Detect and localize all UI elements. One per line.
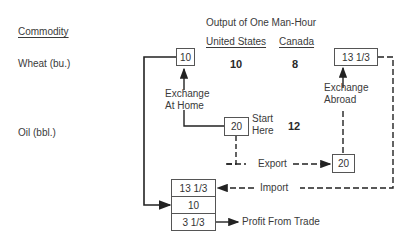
exchange-home-line [184,110,224,126]
canada-oil-value: 12 [288,120,300,132]
stack-profit: 3 1/3 [171,213,216,231]
profit-label: Profit From Trade [242,216,320,228]
stack-import: 13 1/3 [171,179,216,197]
column-canada: Canada [279,36,314,48]
box-start-oil: 20 [224,117,249,136]
column-us: United States [206,36,266,48]
canada-wheat-value: 8 [292,58,298,70]
export-line [226,136,236,164]
output-title: Output of One Man-Hour [206,17,316,29]
us-wheat-value: 10 [230,58,242,70]
stack-home: 10 [171,196,216,214]
exchange-home-label-1: Exchange [165,88,209,100]
commodity-oil: Oil (bbl.) [18,127,56,139]
commodity-wheat: Wheat (bu.) [18,58,70,70]
exchange-abroad-label-2: Abroad [324,94,356,106]
commodity-header: Commodity [18,26,69,38]
start-label-2: Here [252,125,274,137]
export-label: Export [258,158,287,170]
box-us-wheat: 10 [176,48,195,66]
exchange-abroad-label-1: Exchange [324,82,368,94]
exchange-home-label-2: At Home [165,100,204,112]
box-abroad-wheat: 13 1/3 [334,48,378,66]
start-label-1: Start [252,113,273,125]
box-export-oil: 20 [332,154,355,173]
import-label: Import [260,182,288,194]
